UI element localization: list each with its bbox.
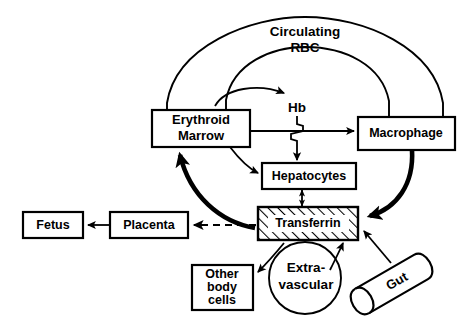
erythroid-marrow-node[interactable]: Erythroid Marrow: [152, 110, 250, 147]
extravascular-label-line2: vascular: [279, 277, 335, 292]
macrophage-to-transferrin-arrow: [370, 150, 412, 216]
circulating-rbc-label-line2: RBC: [290, 40, 319, 55]
fetus-label: Fetus: [36, 218, 69, 232]
other-body-cells-label-line2: body: [207, 280, 237, 294]
hb-node: Hb: [288, 100, 306, 160]
transferrin-node[interactable]: Transferrin: [258, 207, 358, 240]
iron-cycle-diagram: Circulating RBC Erythroid Marrow Macroph…: [0, 0, 472, 331]
hb-label: Hb: [288, 100, 306, 115]
hepatocytes-label: Hepatocytes: [272, 169, 346, 183]
other-body-cells-label-line3: cells: [208, 293, 236, 307]
hepatocytes-node[interactable]: Hepatocytes: [262, 163, 356, 189]
diagram-canvas: Circulating RBC Erythroid Marrow Macroph…: [0, 0, 472, 331]
transferrin-label: Transferrin: [275, 216, 340, 230]
erythroid-marrow-label-line1: Erythroid: [172, 112, 230, 127]
circulating-rbc-label-line1: Circulating: [270, 24, 341, 39]
placenta-node[interactable]: Placenta: [110, 212, 188, 238]
other-body-cells-node[interactable]: Other body cells: [192, 265, 253, 310]
fetus-node[interactable]: Fetus: [23, 212, 83, 238]
erythroid-marrow-label-line2: Marrow: [178, 128, 225, 143]
extravascular-label-line1: Extra-: [287, 260, 325, 275]
placenta-label: Placenta: [123, 218, 175, 232]
macrophage-node[interactable]: Macrophage: [358, 117, 455, 150]
transferrin-to-marrow-arrow: [180, 155, 255, 228]
marrow-to-hepatocytes-arrow: [230, 147, 258, 173]
gut-node[interactable]: Gut: [346, 250, 436, 318]
macrophage-label: Macrophage: [369, 126, 443, 140]
gut-to-transferrin-arrow: [364, 231, 391, 263]
other-body-cells-label-line1: Other: [205, 267, 238, 281]
extravascular-node[interactable]: Extra- vascular: [269, 242, 341, 314]
